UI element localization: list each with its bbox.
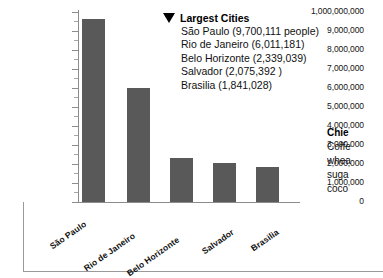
legend-item: São Paulo (9,700,111 people) [181, 25, 363, 38]
legend-entry-list: São Paulo (9,700,111 people) Rio de Jane… [163, 25, 363, 92]
bar-sao-paulo[interactable] [82, 19, 105, 202]
bar-rio-de-janeiro[interactable] [127, 88, 150, 202]
legend-item: Brasilia (1,841,028) [181, 79, 363, 92]
y-minor-tick [74, 78, 78, 79]
side-note-title: Chie [327, 126, 367, 140]
y-tick-label: 0 [298, 197, 364, 206]
legend-title: Largest Cities [180, 12, 249, 25]
y-tick-mark [72, 183, 78, 184]
bar-salvador[interactable] [213, 163, 236, 202]
y-tick-mark [72, 145, 78, 146]
y-minor-tick [74, 116, 78, 117]
x-tick-label-salvador: Salvador [200, 227, 236, 256]
legend-item: Belo Horizonte (2,339,039) [181, 52, 363, 65]
x-axis-line [78, 202, 300, 203]
x-tick-label-brasilia: Brasilia [249, 227, 281, 253]
triangle-down-icon [163, 13, 175, 23]
y-minor-tick [74, 135, 78, 136]
x-tick-label-belo-horizonte: Belo Horizonte [125, 235, 181, 278]
y-tick-mark [72, 88, 78, 89]
y-tick-mark [72, 50, 78, 51]
y-tick-mark [72, 164, 78, 165]
y-minor-tick [74, 21, 78, 22]
y-tick-mark [72, 69, 78, 70]
bar-brasilia[interactable] [256, 167, 279, 202]
legend: Largest Cities São Paulo (9,700,111 peop… [163, 12, 363, 92]
side-note-line: whea [327, 154, 367, 168]
y-minor-tick [74, 40, 78, 41]
y-minor-tick [74, 59, 78, 60]
y-minor-tick [74, 97, 78, 98]
y-minor-tick [74, 173, 78, 174]
y-tick-mark [72, 12, 78, 13]
y-tick-mark [72, 31, 78, 32]
y-tick-mark [72, 202, 78, 203]
legend-item: Salvador (2,075,392 ) [181, 65, 363, 78]
y-tick-mark [72, 126, 78, 127]
y-axis-line [78, 10, 79, 203]
y-tick-label: 5,000,000 [298, 102, 364, 111]
y-minor-tick [74, 192, 78, 193]
side-note-line: suga [327, 168, 367, 182]
legend-item: Rio de Janeiro (6,011,181) [181, 38, 363, 51]
y-tick-mark [72, 107, 78, 108]
side-note-line: Coffe [327, 140, 367, 154]
legend-header: Largest Cities [163, 12, 363, 25]
x-tick-label-sao-paulo: São Paulo [48, 219, 88, 251]
side-note-clipped: Chie Coffe whea suga coco [327, 126, 367, 196]
bar-belo-horizonte[interactable] [170, 158, 193, 202]
side-note-line: coco [327, 182, 367, 196]
y-minor-tick [74, 154, 78, 155]
